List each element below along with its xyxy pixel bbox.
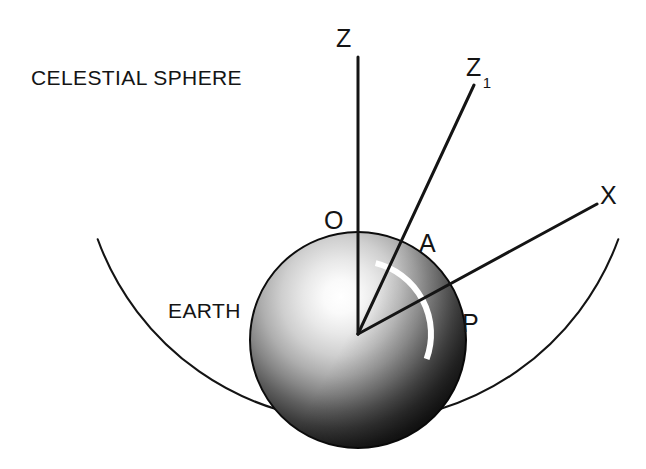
label-zenith-one-subscript: 1 — [483, 74, 492, 91]
label-star: X — [600, 183, 617, 208]
label-observer: O — [324, 208, 344, 233]
label-zenith-one-letter: Z — [466, 53, 482, 81]
celestial-sphere-diagram: Z Z1 X O A P EARTH CELESTIAL SPHERE — [0, 0, 646, 469]
label-zenith: Z — [336, 26, 352, 51]
label-azimuth-point: A — [419, 231, 436, 256]
caption-celestial-sphere: CELESTIAL SPHERE — [31, 67, 242, 88]
label-zenith-one: Z1 — [466, 55, 491, 84]
caption-earth: EARTH — [168, 300, 241, 321]
label-pole-point: P — [462, 311, 479, 336]
